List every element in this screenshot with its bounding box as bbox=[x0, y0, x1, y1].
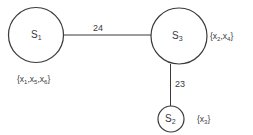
node-s3: S3 bbox=[151, 8, 207, 64]
node-s2: S2 bbox=[158, 106, 184, 132]
set-label-s2: {x3} bbox=[197, 114, 210, 125]
node-s2-subscript: 2 bbox=[172, 118, 176, 125]
svg-text:S3: S3 bbox=[172, 30, 183, 42]
node-s3-subscript: 3 bbox=[179, 35, 183, 42]
node-s1-subscript: 1 bbox=[38, 34, 42, 41]
node-s1: S1 bbox=[9, 8, 64, 63]
svg-text:S1: S1 bbox=[31, 29, 42, 41]
svg-text:S2: S2 bbox=[165, 113, 176, 125]
set-label-s1: {x1,x5,x6} bbox=[17, 74, 50, 85]
edge-weight-s3-s2: 23 bbox=[175, 79, 185, 89]
graph-diagram: 24 23 S1 S3 S2 {x2,x4} {x1,x5,x6} {x3} bbox=[0, 0, 253, 135]
edge-weight-s1-s3: 24 bbox=[93, 23, 103, 33]
set-label-s3: {x2,x4} bbox=[210, 31, 233, 42]
